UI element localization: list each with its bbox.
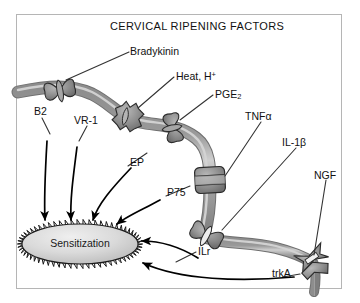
cervical-ripening-factors-figure: CERVICAL RIPENING FACTORS Bradykinin Hea…	[0, 0, 360, 303]
receptor-p75	[194, 166, 225, 194]
label-trka: trkA	[272, 268, 291, 279]
label-bradykinin: Bradykinin	[130, 46, 179, 57]
label-heat-h: Heat, H+	[176, 71, 216, 82]
label-il1b: IL-1β	[282, 137, 306, 148]
label-tnfa: TNFα	[245, 111, 271, 122]
label-pge2-sub: 2	[237, 92, 241, 101]
label-vr1: VR-1	[74, 115, 98, 126]
sensitization-label: Sensitization	[42, 238, 118, 249]
label-pge2-text: PGE	[215, 88, 237, 100]
label-pge2: PGE2	[215, 89, 241, 101]
label-heat-h-text: Heat, H	[176, 70, 212, 82]
figure-title: CERVICAL RIPENING FACTORS	[110, 21, 284, 32]
label-ilr: ILr	[198, 246, 210, 257]
label-heat-h-sup: +	[212, 70, 216, 79]
label-b2: B2	[34, 106, 47, 117]
label-p75: P75	[167, 187, 186, 198]
diagram-canvas	[0, 0, 360, 303]
label-ngf: NGF	[314, 170, 336, 181]
label-ep: EP	[130, 157, 144, 168]
